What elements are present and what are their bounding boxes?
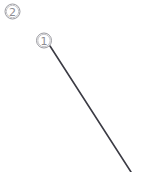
leader-line-group [50,46,131,172]
callout-marker-2[interactable]: 2 [5,4,20,19]
figure-canvas: 2 1 [0,0,166,172]
leader-line-callout-1 [50,46,131,172]
callout-2-label: 2 [9,6,16,19]
callout-1-label: 1 [41,35,48,48]
callout-marker-1[interactable]: 1 [37,33,52,48]
figure-svg: 2 1 [0,0,166,172]
